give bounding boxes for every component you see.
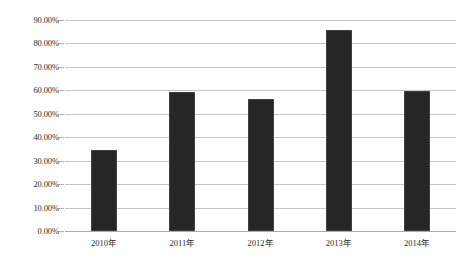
bar	[169, 92, 195, 231]
bar-chart: 0.00%10.00%20.00%30.00%40.00%50.00%60.00…	[0, 0, 472, 264]
plot-area	[65, 20, 456, 231]
x-axis-tick-label: 2011年	[169, 236, 195, 248]
y-axis-tick-label: 40.00%	[0, 132, 59, 142]
x-axis-tick-label: 2014年	[404, 236, 430, 248]
x-axis-tick-label: 2012年	[248, 236, 274, 248]
y-axis-tick-label: 80.00%	[0, 38, 59, 48]
x-axis-tick-label: 2013年	[326, 236, 352, 248]
gridline	[65, 20, 456, 21]
bar	[248, 99, 274, 231]
bar	[404, 91, 430, 231]
y-axis-tick-label: 60.00%	[0, 85, 59, 95]
gridline	[65, 67, 456, 68]
y-axis-tick-label: 50.00%	[0, 109, 59, 119]
y-axis-tick-label: 70.00%	[0, 62, 59, 72]
gridline	[65, 43, 456, 44]
bar	[91, 150, 117, 231]
y-axis-tick-label: 30.00%	[0, 156, 59, 166]
bar	[326, 30, 352, 231]
y-axis-tick-label: 10.00%	[0, 203, 59, 213]
y-axis-tick-label: 90.00%	[0, 15, 59, 25]
gridline	[65, 90, 456, 91]
x-axis-tick-label: 2010年	[91, 236, 117, 248]
axis-line-baseline	[65, 231, 456, 232]
y-axis-tick-label: 20.00%	[0, 179, 59, 189]
y-axis-tick-label: 0.00%	[0, 226, 59, 236]
